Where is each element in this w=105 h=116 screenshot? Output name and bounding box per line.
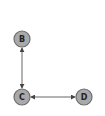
node-d: D: [76, 89, 92, 105]
node-b-label: B: [19, 35, 25, 44]
node-b: B: [14, 31, 30, 47]
node-c-label: C: [19, 93, 25, 102]
node-d-label: D: [81, 93, 88, 102]
node-c: C: [14, 89, 30, 105]
graph-diagram: B C D: [0, 0, 105, 116]
